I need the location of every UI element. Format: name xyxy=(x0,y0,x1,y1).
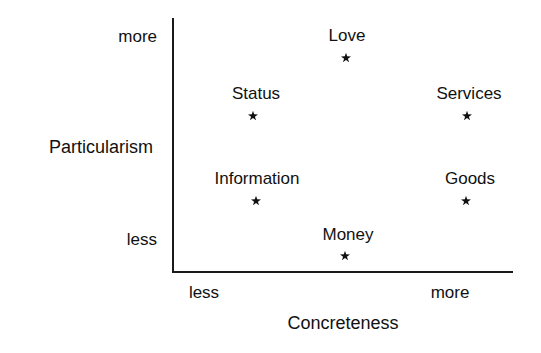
y-axis-title: Particularism xyxy=(49,138,153,157)
y-axis-tick-less: less xyxy=(127,230,157,249)
point-label-services: Services xyxy=(436,84,501,103)
resource-theory-scatter-chart: more less Particularism less more Concre… xyxy=(0,0,541,353)
point-label-information: Information xyxy=(214,169,299,188)
star-marker-services xyxy=(462,111,473,122)
point-label-love: Love xyxy=(329,26,366,45)
x-axis-title: Concreteness xyxy=(287,314,398,333)
star-marker-goods xyxy=(461,196,472,207)
star-marker-status xyxy=(248,111,259,122)
x-axis-tick-more: more xyxy=(431,283,470,302)
point-label-status: Status xyxy=(232,84,280,103)
point-label-money: Money xyxy=(322,225,373,244)
star-marker-love xyxy=(341,53,352,64)
x-axis-line xyxy=(172,271,513,273)
star-marker-money xyxy=(340,251,351,262)
y-axis-tick-more: more xyxy=(118,27,157,46)
x-axis-tick-less: less xyxy=(189,283,219,302)
star-marker-information xyxy=(251,196,262,207)
point-label-goods: Goods xyxy=(445,169,495,188)
y-axis-line xyxy=(172,18,174,273)
